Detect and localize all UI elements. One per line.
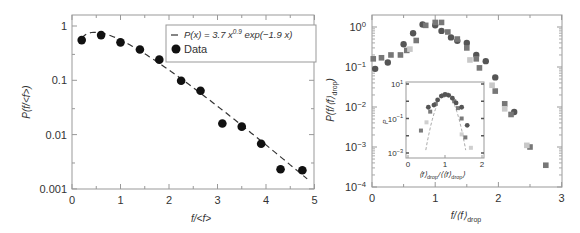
data-point [385, 59, 391, 65]
inset-y-axis-label: P [382, 119, 389, 124]
y-tick-label: 0.1 [52, 74, 67, 86]
x-tick-label: 2 [495, 192, 501, 204]
data-point [218, 119, 227, 128]
tick-label: 10−4 [345, 180, 367, 193]
tick-label: 100 [349, 20, 366, 33]
left-x-axis-label: f/<f> [191, 213, 211, 224]
data-point [155, 55, 164, 64]
data-point [439, 20, 445, 26]
data-point [407, 46, 413, 52]
right-y-axis-label: P(f/⟨f⟩drop) [325, 78, 339, 122]
data-point [502, 101, 508, 107]
legend-circle-icon [172, 45, 181, 54]
left-y-axis-label: P(f/<f>) [21, 85, 32, 118]
data-point [524, 143, 530, 149]
data-point [445, 29, 451, 35]
data-point [116, 38, 125, 47]
data-point [492, 74, 498, 80]
data-point [477, 65, 483, 71]
data-point [196, 87, 205, 96]
data-point [467, 57, 473, 63]
x-tick-label: 1 [432, 192, 438, 204]
tick-label: 10−2 [345, 100, 366, 113]
data-point [136, 45, 145, 54]
x-tick-label: 4 [263, 194, 269, 206]
tick-label: 101 [391, 79, 403, 89]
data-point [423, 23, 429, 29]
inset-chart: 01210−310−1101 ⟨f⟩drop/⟨⟨f⟩drop⟩ P [382, 79, 485, 180]
right-chart: 012310−410−310−210−1100 f/⟨f⟩drop P(f/⟨f… [325, 15, 565, 224]
y-tick-label: 1 [61, 20, 67, 32]
data-point [77, 36, 86, 45]
data-point [543, 162, 549, 168]
x-tick-label: 1 [117, 194, 123, 206]
figure: 0123450.0010.010.11 P(x) = 3.7 x0.9 exp(… [0, 0, 580, 233]
x-tick-label: 0 [406, 160, 411, 169]
tick-label: 10−3 [345, 140, 366, 153]
data-point [483, 58, 489, 64]
data-point [413, 38, 419, 44]
data-point [372, 66, 378, 72]
x-tick-label: 5 [311, 194, 317, 206]
y-tick-label: 0.01 [46, 129, 67, 141]
data-point [448, 34, 454, 40]
data-point [473, 56, 479, 62]
y-tick-label: 0.001 [39, 183, 67, 195]
tick-label: 10−3 [388, 148, 403, 158]
x-tick-label: 3 [214, 194, 220, 206]
x-tick-label: 0 [69, 194, 75, 206]
data-point [438, 28, 444, 34]
tick-label: 10−1 [388, 113, 403, 123]
data-point [502, 106, 508, 112]
data-point [379, 55, 385, 61]
data-point [489, 82, 495, 88]
data-point [257, 139, 266, 148]
data-point [97, 31, 106, 40]
x-tick-label: 2 [166, 194, 172, 206]
data-point [492, 88, 498, 94]
x-tick-label: 2 [480, 160, 485, 169]
x-tick-label: 3 [559, 192, 565, 204]
data-point [388, 52, 394, 58]
x-tick-label: 1 [443, 160, 448, 169]
inset-x-axis-label: ⟨f⟩drop/⟨⟨f⟩drop⟩ [419, 170, 467, 180]
data-point [298, 166, 307, 175]
data-point [370, 56, 376, 62]
data-point [410, 30, 416, 36]
legend-data-label: Data [184, 43, 208, 55]
data-point [276, 165, 285, 174]
right-x-axis-label: f/⟨f⟩drop [451, 210, 481, 224]
left-legend: P(x) = 3.7 x0.9 exp(−1.9 x) Data [166, 25, 316, 62]
data-point [455, 36, 461, 42]
data-point [464, 45, 470, 51]
data-point [400, 41, 406, 47]
x-tick-label: 0 [369, 192, 375, 204]
tick-label: 10−1 [345, 60, 366, 73]
left-chart: 0123450.0010.010.11 P(x) = 3.7 x0.9 exp(… [21, 15, 318, 224]
data-point [432, 20, 438, 26]
data-point [237, 122, 246, 131]
data-point [177, 76, 186, 85]
data-point [508, 112, 514, 118]
data-point [398, 52, 404, 58]
